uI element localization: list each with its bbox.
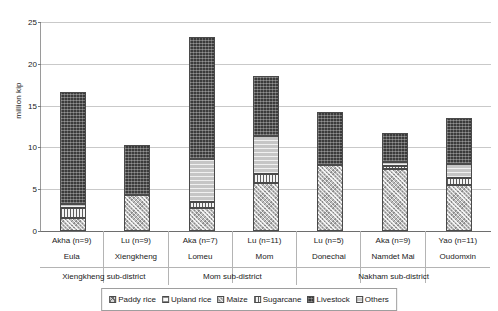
y-tick-label: 5 — [33, 185, 37, 194]
legend-item: Livestock — [307, 295, 349, 304]
bar-segment-maize — [124, 195, 150, 231]
bar-segment-sugarcane — [446, 178, 472, 186]
x-axis-village-label: Namdet Mai — [361, 252, 424, 261]
bar-slot — [234, 22, 298, 231]
plot-area: 0510152025 — [40, 22, 491, 232]
bar-slot — [362, 22, 426, 231]
legend-item: Sugarcane — [254, 295, 302, 304]
bar-segment-maize — [446, 185, 472, 231]
bar-segment-livestock — [124, 145, 150, 195]
bar-segment-maize — [253, 183, 279, 231]
y-tick-label: 20 — [28, 59, 37, 68]
legend-label: Sugarcane — [263, 295, 302, 304]
legend-swatch-maize-icon — [217, 296, 224, 303]
legend-label: Others — [365, 295, 389, 304]
y-tick-label: 25 — [28, 18, 37, 27]
bar-segment-livestock — [382, 133, 408, 161]
x-axis-village-label: Xiengkheng — [104, 252, 167, 261]
x-axis-ethnicity-label: Akha (n=9) — [40, 236, 103, 245]
sub-district-label: Xiengkheng sub-district — [40, 267, 169, 285]
bar-segment-others — [189, 159, 215, 202]
bar-slot — [105, 22, 169, 231]
y-tick-label: 15 — [28, 101, 37, 110]
bar-segment-others — [60, 204, 86, 207]
y-tick-label: 10 — [28, 143, 37, 152]
legend-item: Paddy rice — [109, 295, 156, 304]
bar-segment-maize — [60, 218, 86, 231]
bar-segment-livestock — [60, 92, 86, 204]
legend-swatch-others-icon — [356, 296, 363, 303]
x-axis-ethnicity-label: Yao (n=11) — [426, 236, 490, 245]
x-axis-ethnicity-label: Aka (n=9) — [361, 236, 424, 245]
x-axis-village-label: Donechai — [297, 252, 360, 261]
bar-slot — [298, 22, 362, 231]
bar-segment-livestock — [317, 112, 343, 165]
bar-segment-others — [382, 162, 408, 166]
chart-legend: Paddy riceUpland riceMaizeSugarcaneLives… — [101, 288, 397, 311]
bar-segment-others — [446, 164, 472, 177]
x-axis-village-label: Oudomxin — [426, 252, 490, 261]
bar-segment-sugarcane — [60, 208, 86, 218]
bar-segment-others — [253, 136, 279, 174]
x-axis-ethnicity-label: Lu (n=11) — [233, 236, 296, 245]
bar-slot — [427, 22, 491, 231]
legend-item: Upland rice — [162, 295, 211, 304]
x-axis-village-label: Mom — [233, 252, 296, 261]
bar-slot — [41, 22, 105, 231]
bar-segment-livestock — [189, 37, 215, 159]
legend-swatch-sugarcane-icon — [254, 296, 261, 303]
legend-label: Livestock — [316, 295, 349, 304]
legend-item: Maize — [217, 295, 247, 304]
legend-label: Upland rice — [171, 295, 211, 304]
y-tick-label: 0 — [33, 227, 37, 236]
legend-label: Paddy rice — [118, 295, 156, 304]
sub-district-row: Xiengkheng sub-districtMom sub-districtN… — [40, 267, 490, 285]
x-axis-village-label: Eula — [40, 252, 103, 261]
x-axis-village-label: Lomeu — [169, 252, 232, 261]
bar-segment-maize — [317, 165, 343, 231]
bar-segment-maize — [382, 169, 408, 231]
bar-slot — [170, 22, 234, 231]
x-axis-ethnicity-label: Lu (n=9) — [104, 236, 167, 245]
legend-label: Maize — [226, 295, 247, 304]
legend-item: Others — [356, 295, 389, 304]
legend-swatch-paddy-icon — [109, 296, 116, 303]
bar-segment-livestock — [253, 76, 279, 135]
x-axis-ethnicity-label: Lu (n=5) — [297, 236, 360, 245]
x-axis-ethnicity-label: Aka (n=7) — [169, 236, 232, 245]
sub-district-label: Nakham sub-district — [297, 267, 490, 285]
bar-segment-sugarcane — [382, 166, 408, 169]
legend-swatch-livestock-icon — [307, 296, 314, 303]
bar-segment-sugarcane — [253, 174, 279, 183]
bar-segment-livestock — [446, 118, 472, 164]
sub-district-label: Mom sub-district — [169, 267, 298, 285]
legend-swatch-upland-icon — [162, 296, 169, 303]
bar-segment-maize — [189, 208, 215, 231]
y-axis-title: million kip — [14, 61, 23, 141]
bar-segment-sugarcane — [189, 202, 215, 209]
